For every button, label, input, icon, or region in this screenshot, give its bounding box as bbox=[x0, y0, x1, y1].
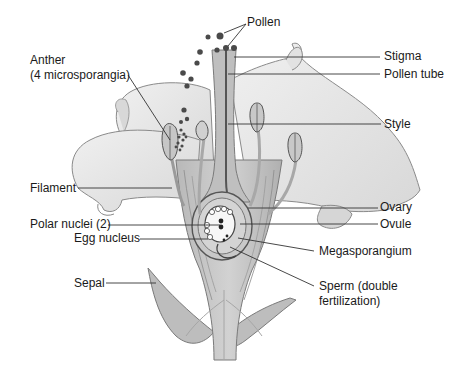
label-stigma: Stigma bbox=[384, 49, 421, 64]
label-ovary: Ovary bbox=[380, 200, 412, 215]
polar-nucleus-icon bbox=[219, 219, 224, 224]
label-megasporangium: Megasporangium bbox=[319, 244, 412, 259]
label-egg-nucleus: Egg nucleus bbox=[74, 231, 140, 246]
label-style: Style bbox=[384, 117, 411, 132]
label-sperm: Sperm (double fertilization) bbox=[319, 279, 398, 309]
label-sperm-line2: fertilization) bbox=[319, 294, 398, 309]
label-anther: Anther (4 microsporangia) bbox=[30, 53, 130, 83]
label-anther-line1: Anther bbox=[30, 53, 130, 68]
label-filament: Filament bbox=[30, 181, 76, 196]
label-pollen: Pollen bbox=[247, 15, 280, 30]
label-sepal: Sepal bbox=[74, 276, 105, 291]
label-sperm-line1: Sperm (double bbox=[319, 279, 398, 294]
label-polar-nuclei: Polar nuclei (2) bbox=[30, 217, 111, 232]
ovary bbox=[192, 192, 252, 260]
label-anther-line2: (4 microsporangia) bbox=[30, 68, 130, 83]
label-ovule: Ovule bbox=[380, 217, 411, 232]
flower-diagram: Pollen Stigma Pollen tube Style Anther (… bbox=[0, 0, 464, 382]
label-pollen-tube: Pollen tube bbox=[384, 67, 444, 82]
